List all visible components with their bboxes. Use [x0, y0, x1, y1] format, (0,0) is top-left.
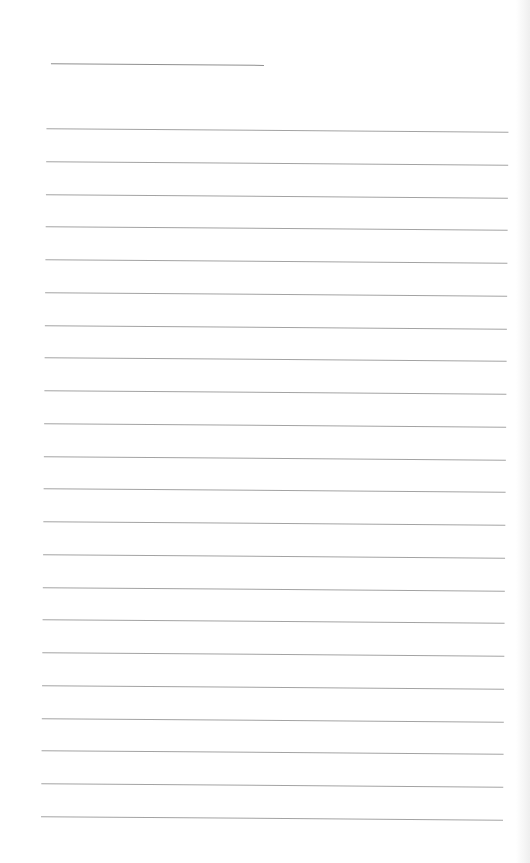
- ruled-line: [43, 521, 505, 526]
- ruled-line: [46, 194, 508, 199]
- page-edge-shadow: [516, 0, 530, 863]
- ruled-line: [42, 750, 504, 755]
- ruled-line: [44, 456, 506, 461]
- ruled-line: [41, 816, 503, 821]
- ruled-line: [43, 554, 505, 559]
- ruled-line: [44, 423, 506, 428]
- ruled-line: [46, 161, 508, 166]
- ruled-line: [46, 226, 508, 231]
- rule-lines: [3, 0, 530, 2]
- lined-paper-page: [0, 0, 530, 863]
- ruled-line: [44, 488, 506, 493]
- ruled-line: [45, 357, 507, 362]
- ruled-line: [46, 128, 508, 133]
- ruled-lines-area: [0, 0, 530, 863]
- ruled-line: [44, 390, 506, 395]
- ruled-line: [42, 652, 504, 657]
- ruled-line: [45, 259, 507, 264]
- ruled-line: [41, 783, 503, 788]
- ruled-line: [42, 718, 504, 723]
- title-line: [51, 63, 264, 66]
- ruled-line: [45, 325, 507, 330]
- ruled-line: [43, 587, 505, 592]
- ruled-line: [43, 619, 505, 624]
- ruled-line: [42, 685, 504, 690]
- ruled-line: [45, 292, 507, 297]
